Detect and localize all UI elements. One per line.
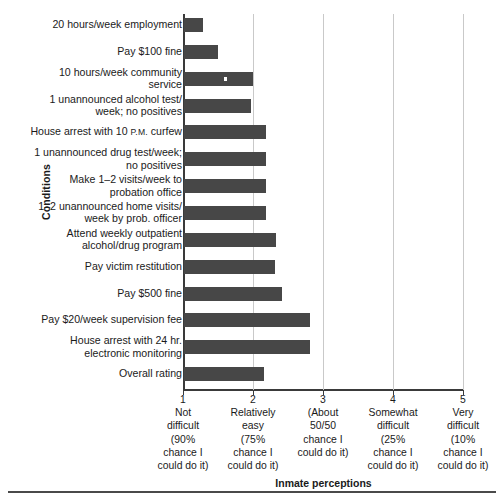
bar-category-label: 1 unannounced alcohol test/week; no posi… — [0, 93, 182, 118]
bar-row: Attend weekly outpatientalcohol/drug pro… — [0, 229, 504, 257]
bar-row: 1 unannounced drug test/week;no positive… — [0, 148, 504, 176]
bar — [184, 72, 253, 86]
bar-category-label: House arrest with 24 hr.electronic monit… — [0, 334, 182, 359]
bar — [184, 125, 266, 139]
x-tick-label-5: 5Verydifficult(10%chance Icould do it) — [408, 393, 504, 472]
bar-category-label: Pay $500 fine — [0, 287, 182, 299]
bar-row: Pay $20/week supervision fee — [0, 309, 504, 337]
bar-category-label: Pay $20/week supervision fee — [0, 313, 182, 325]
footer-divider — [8, 491, 496, 493]
bar-category-label: Pay victim restitution — [0, 260, 182, 272]
bar-row: Pay $500 fine — [0, 283, 504, 311]
bar-category-label: Make 1–2 visits/week toprobation office — [0, 173, 182, 198]
bar — [184, 313, 310, 327]
bar — [184, 99, 251, 113]
bar-row: 1–2 unannounced home visits/week by prob… — [0, 202, 504, 230]
bar-row: 10 hours/week communityservice — [0, 68, 504, 96]
x-tick-number: 5 — [408, 393, 504, 406]
bar-row: House arrest with 10 P.M. curfew — [0, 121, 504, 149]
bar-row: Overall rating — [0, 363, 504, 391]
bar-row: 20 hours/week employment — [0, 14, 504, 42]
bar — [184, 340, 310, 354]
bar — [184, 152, 266, 166]
bar-category-label: 1–2 unannounced home visits/week by prob… — [0, 200, 182, 225]
bar — [184, 367, 264, 381]
bar — [184, 18, 203, 32]
bar — [184, 179, 266, 193]
bar — [184, 206, 266, 220]
x-axis-title: Inmate perceptions — [183, 477, 464, 489]
bar-category-label: 20 hours/week employment — [0, 18, 182, 30]
bar — [184, 287, 282, 301]
bar-category-label: House arrest with 10 P.M. curfew — [0, 125, 182, 138]
smallcaps-pm: P.M. — [130, 127, 147, 137]
bar-category-label: 1 unannounced drug test/week;no positive… — [0, 146, 182, 171]
bar-category-label: 10 hours/week communityservice — [0, 66, 182, 91]
bar-row: Pay victim restitution — [0, 256, 504, 284]
bar-category-label: Attend weekly outpatientalcohol/drug pro… — [0, 227, 182, 252]
bar-chart: Conditions 20 hours/week employmentPay $… — [0, 0, 504, 500]
bar-category-label: Pay $100 fine — [0, 45, 182, 57]
bar-row: House arrest with 24 hr.electronic monit… — [0, 336, 504, 364]
bar — [184, 260, 275, 274]
bar-row: Pay $100 fine — [0, 41, 504, 69]
bar-category-label: Overall rating — [0, 367, 182, 379]
bar — [184, 45, 218, 59]
bar-row: 1 unannounced alcohol test/week; no posi… — [0, 95, 504, 123]
bar-row: Make 1–2 visits/week toprobation office — [0, 175, 504, 203]
bar — [184, 233, 276, 247]
bar-speck-artifact — [224, 77, 227, 81]
